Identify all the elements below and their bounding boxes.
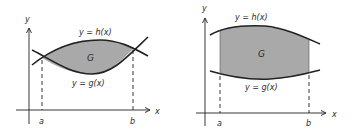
right-a-label: a bbox=[217, 119, 222, 128]
left-diagram: y x a b y = h(x) y = g(x) G bbox=[16, 15, 160, 126]
left-g-label: y = g(x) bbox=[71, 79, 105, 88]
left-region-label: G bbox=[87, 53, 94, 63]
left-y-label: y bbox=[24, 15, 30, 24]
right-x-label: x bbox=[331, 110, 337, 119]
left-x-label: x bbox=[154, 107, 160, 116]
right-diagram: y x a b y = h(x) y = g(x) G bbox=[196, 4, 337, 128]
right-h-label: y = h(x) bbox=[234, 13, 268, 22]
right-y-label: y bbox=[201, 4, 207, 13]
right-g-label: y = g(x) bbox=[244, 83, 278, 92]
figure-canvas: y x a b y = h(x) y = g(x) G y x a b y = … bbox=[0, 0, 353, 132]
diagrams-svg: y x a b y = h(x) y = g(x) G y x a b y = … bbox=[0, 0, 353, 132]
left-h-label: y = h(x) bbox=[78, 28, 112, 37]
right-region-label: G bbox=[258, 49, 265, 59]
right-b-label: b bbox=[306, 119, 311, 128]
left-a-label: a bbox=[39, 117, 44, 126]
left-b-label: b bbox=[130, 117, 135, 126]
